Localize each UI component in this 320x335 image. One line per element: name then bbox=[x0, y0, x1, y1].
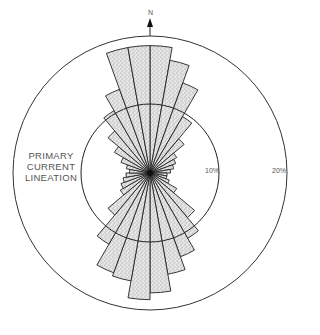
center-point bbox=[147, 170, 153, 176]
north-arrow-icon bbox=[147, 18, 153, 36]
ring-20-label: 20% bbox=[272, 167, 286, 174]
label-line-3: LINEATION bbox=[20, 172, 82, 183]
ring-10-label: 10% bbox=[205, 167, 219, 174]
label-line-1: PRIMARY bbox=[20, 150, 82, 161]
primary-current-lineation-label: PRIMARY CURRENT LINEATION bbox=[20, 150, 82, 183]
label-line-2: CURRENT bbox=[20, 161, 82, 172]
north-label: N bbox=[148, 9, 153, 16]
